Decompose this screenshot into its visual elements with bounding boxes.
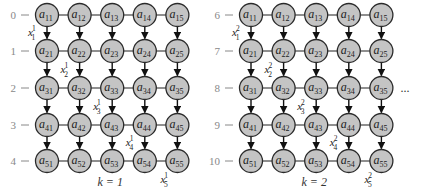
node-a25: a25 xyxy=(166,40,189,63)
row-label: 9 xyxy=(215,119,221,131)
node-a42: a42 xyxy=(272,114,295,137)
row-label: 7 xyxy=(215,45,221,57)
node-a24: a24 xyxy=(133,40,156,63)
x-label-1: x11 xyxy=(27,24,36,42)
x-label-3: x23 xyxy=(296,98,305,116)
x-label-2: x12 xyxy=(60,61,69,79)
node-a44: a44 xyxy=(133,114,156,137)
node-a25: a25 xyxy=(370,40,393,63)
x-label-3: x13 xyxy=(92,98,101,116)
row-label: 4 xyxy=(11,155,17,167)
node-a45: a45 xyxy=(166,114,189,137)
row-label: 0 xyxy=(11,9,17,21)
node-a55: a55 xyxy=(166,150,189,173)
grid-diagram: 01234a11a12a13a14a15a21a22a23a24a25a31a3… xyxy=(0,0,422,189)
node-a11: a11 xyxy=(240,4,263,27)
node-a51: a51 xyxy=(36,150,59,173)
node-a22: a22 xyxy=(272,40,295,63)
node-a13: a13 xyxy=(101,4,124,27)
node-a41: a41 xyxy=(36,114,59,137)
row-label: 6 xyxy=(215,9,221,21)
x-label-2: x22 xyxy=(264,61,273,79)
node-a21: a21 xyxy=(240,40,263,63)
node-a14: a14 xyxy=(337,4,360,27)
node-a44: a44 xyxy=(337,114,360,137)
panel-k2: 678910a11a12a13a14a15a21a22a23a24a25a31a… xyxy=(209,4,393,190)
node-a34: a34 xyxy=(337,77,360,100)
node-a23: a23 xyxy=(305,40,328,63)
node-a31: a31 xyxy=(240,77,263,100)
node-a55: a55 xyxy=(370,150,393,173)
node-a14: a14 xyxy=(133,4,156,27)
row-label: 2 xyxy=(11,82,17,94)
k-label: k = 1 xyxy=(97,175,122,189)
panel-k1: 01234a11a12a13a14a15a21a22a23a24a25a31a3… xyxy=(11,4,189,190)
x-label-1: x21 xyxy=(231,24,240,42)
node-a13: a13 xyxy=(305,4,328,27)
row-label: 10 xyxy=(209,155,221,167)
node-a43: a43 xyxy=(101,114,124,137)
node-a34: a34 xyxy=(133,77,156,100)
node-a33: a33 xyxy=(101,77,124,100)
node-a12: a12 xyxy=(68,4,91,27)
x-label-4: x14 xyxy=(125,134,134,152)
x-label-5: x15 xyxy=(159,171,168,189)
continuation-ellipsis: ... xyxy=(401,81,410,95)
node-a22: a22 xyxy=(68,40,91,63)
node-a52: a52 xyxy=(272,150,295,173)
node-a53: a53 xyxy=(101,150,124,173)
node-a53: a53 xyxy=(305,150,328,173)
k-label: k = 2 xyxy=(301,175,326,189)
row-label: 1 xyxy=(11,45,17,57)
node-a12: a12 xyxy=(272,4,295,27)
x-label-5: x25 xyxy=(363,171,372,189)
x-label-4: x24 xyxy=(329,134,338,152)
node-a21: a21 xyxy=(36,40,59,63)
node-a35: a35 xyxy=(166,77,189,100)
node-a45: a45 xyxy=(370,114,393,137)
node-a35: a35 xyxy=(370,77,393,100)
node-a11: a11 xyxy=(36,4,59,27)
node-a43: a43 xyxy=(305,114,328,137)
node-a15: a15 xyxy=(166,4,189,27)
node-a33: a33 xyxy=(305,77,328,100)
node-a31: a31 xyxy=(36,77,59,100)
node-a32: a32 xyxy=(68,77,91,100)
row-label: 8 xyxy=(215,82,221,94)
node-a24: a24 xyxy=(337,40,360,63)
node-a32: a32 xyxy=(272,77,295,100)
node-a41: a41 xyxy=(240,114,263,137)
node-a42: a42 xyxy=(68,114,91,137)
node-a54: a54 xyxy=(133,150,156,173)
node-a54: a54 xyxy=(337,150,360,173)
row-label: 3 xyxy=(11,119,17,131)
node-a52: a52 xyxy=(68,150,91,173)
node-a23: a23 xyxy=(101,40,124,63)
node-a15: a15 xyxy=(370,4,393,27)
node-a51: a51 xyxy=(240,150,263,173)
